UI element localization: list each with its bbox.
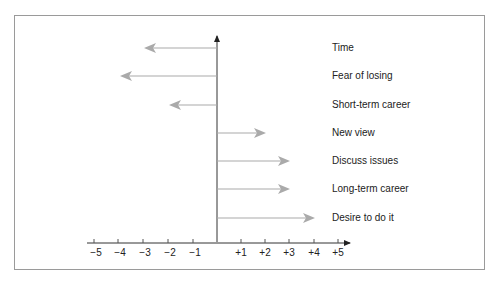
tick-label: +2 — [259, 247, 270, 258]
tick-label: −4 — [114, 247, 125, 258]
force-label-new-view: New view — [332, 127, 375, 138]
axis-ticks — [94, 239, 338, 243]
arrow-new-view — [217, 128, 266, 138]
force-field-diagram — [0, 0, 499, 282]
tick-label: −2 — [164, 247, 175, 258]
arrow-short-term-career — [169, 100, 217, 110]
force-label-discuss-issues: Discuss issues — [332, 155, 398, 166]
force-label-fear-of-losing: Fear of losing — [332, 70, 393, 81]
force-label-time: Time — [332, 42, 354, 53]
force-label-desire-to-do-it: Desire to do it — [332, 212, 394, 223]
arrow-desire-to-do-it — [217, 213, 315, 223]
tick-label: +4 — [308, 247, 319, 258]
force-label-short-term-career: Short-term career — [332, 99, 410, 110]
tick-label: −5 — [90, 247, 101, 258]
tick-label: +5 — [332, 247, 343, 258]
force-label-long-term-career: Long-term career — [332, 183, 409, 194]
arrow-fear-of-losing — [120, 71, 217, 81]
tick-label: −1 — [189, 247, 200, 258]
arrow-time — [144, 43, 217, 53]
tick-label: +1 — [235, 247, 246, 258]
tick-label: +3 — [283, 247, 294, 258]
tick-label: −3 — [139, 247, 150, 258]
arrow-discuss-issues — [217, 156, 290, 166]
arrow-long-term-career — [217, 184, 290, 194]
